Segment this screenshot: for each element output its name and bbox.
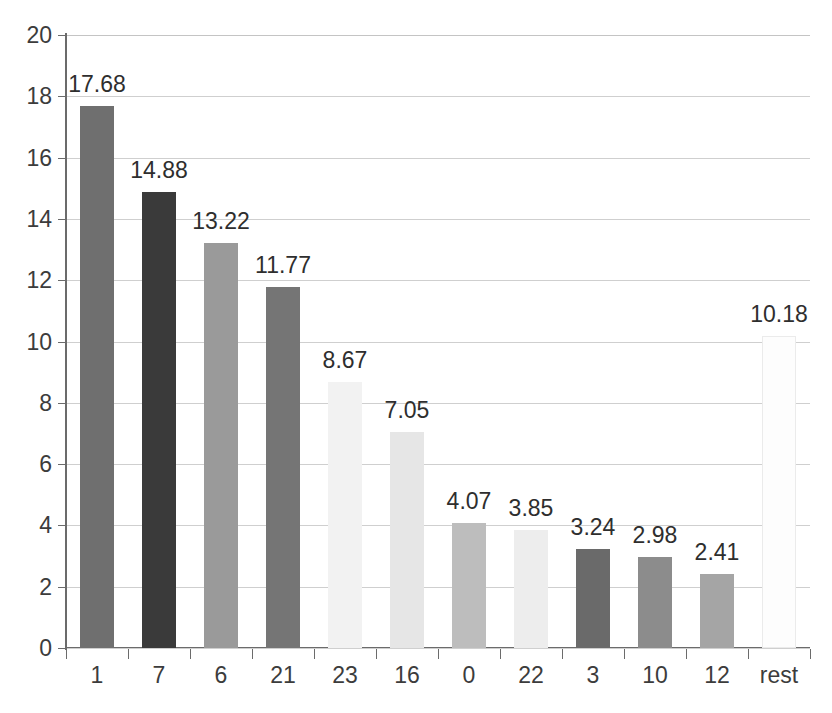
bar-fill — [638, 557, 672, 648]
x-axis-tick-label: 1 — [91, 664, 104, 687]
bar-fill — [328, 382, 362, 648]
x-axis-tick — [438, 649, 439, 659]
y-axis-tick — [58, 219, 67, 220]
bar-value-label: 3.24 — [571, 516, 616, 539]
bar[interactable] — [452, 523, 486, 648]
gridline — [66, 280, 810, 281]
x-axis-tick-label: 12 — [704, 664, 730, 687]
gridline — [66, 464, 810, 465]
x-axis-tick-label: 6 — [215, 664, 228, 687]
x-axis-tick-label: 16 — [394, 664, 420, 687]
bar[interactable] — [142, 192, 176, 648]
y-axis-tick — [58, 96, 67, 97]
x-axis-tick — [810, 649, 811, 659]
y-axis-tick-label: 4 — [6, 514, 52, 537]
x-axis-tick-label: 22 — [518, 664, 544, 687]
bar[interactable] — [762, 336, 796, 648]
bar-fill — [700, 574, 734, 648]
x-axis-tick — [190, 649, 191, 659]
bar[interactable] — [638, 557, 672, 648]
x-axis-tick-label: 3 — [587, 664, 600, 687]
y-axis-tick — [58, 403, 67, 404]
x-axis-tick-label: 0 — [463, 664, 476, 687]
bar-value-label: 4.07 — [447, 490, 492, 513]
x-axis-tick — [748, 649, 749, 659]
bar-chart: 02468101214161820 17.68114.88713.22611.7… — [0, 0, 832, 713]
gridline — [66, 403, 810, 404]
x-axis-tick-label: 10 — [642, 664, 668, 687]
x-axis-tick — [686, 649, 687, 659]
y-axis-tick — [58, 342, 67, 343]
bar-fill — [514, 530, 548, 648]
gridline — [66, 342, 810, 343]
y-axis-tick-label: 14 — [6, 208, 52, 231]
gridline — [66, 35, 810, 36]
y-axis-tick-label: 2 — [6, 576, 52, 599]
x-axis-tick — [314, 649, 315, 659]
y-axis-tick-label: 10 — [6, 331, 52, 354]
gridline — [66, 525, 810, 526]
bar[interactable] — [390, 432, 424, 648]
x-axis-tick — [562, 649, 563, 659]
y-axis-tick-label: 18 — [6, 85, 52, 108]
x-axis-tick — [128, 649, 129, 659]
bar-fill — [576, 549, 610, 648]
bar-fill — [390, 432, 424, 648]
x-axis-tick — [376, 649, 377, 659]
y-axis-tick — [58, 525, 67, 526]
bar-value-label: 7.05 — [385, 399, 430, 422]
x-axis-tick-label: rest — [760, 664, 798, 687]
bar-fill — [80, 106, 114, 648]
bar[interactable] — [328, 382, 362, 648]
y-axis-tick — [58, 464, 67, 465]
bar[interactable] — [514, 530, 548, 648]
y-axis-tick — [58, 587, 67, 588]
bar[interactable] — [700, 574, 734, 648]
y-axis-tick — [58, 280, 67, 281]
bar-fill — [266, 287, 300, 648]
x-axis-tick-label: 21 — [270, 664, 296, 687]
bar-fill — [204, 243, 238, 648]
bar-value-label: 13.22 — [192, 210, 250, 233]
x-axis-tick — [624, 649, 625, 659]
bar-value-label: 14.88 — [130, 159, 188, 182]
y-axis-tick-label: 20 — [6, 24, 52, 47]
y-axis-tick — [58, 158, 67, 159]
x-axis-tick-label: 23 — [332, 664, 358, 687]
x-axis-tick — [66, 649, 67, 659]
gridline — [66, 96, 810, 97]
bar-value-label: 11.77 — [255, 254, 311, 277]
bar-fill — [142, 192, 176, 648]
x-axis-tick-label: 7 — [153, 664, 166, 687]
bar[interactable] — [204, 243, 238, 648]
bar-value-label: 8.67 — [323, 349, 368, 372]
bar-value-label: 17.68 — [68, 73, 126, 96]
bar-value-label: 10.18 — [750, 303, 808, 326]
y-axis-tick-label: 16 — [6, 147, 52, 170]
y-axis-labels: 02468101214161820 — [0, 0, 52, 713]
bar-fill — [762, 336, 796, 648]
bar-fill — [452, 523, 486, 648]
bar[interactable] — [80, 106, 114, 648]
bar[interactable] — [266, 287, 300, 648]
y-axis-tick-label: 8 — [6, 392, 52, 415]
x-axis-tick — [500, 649, 501, 659]
bar[interactable] — [576, 549, 610, 648]
y-axis-tick-label: 0 — [6, 637, 52, 660]
gridline — [66, 219, 810, 220]
y-axis-tick-label: 12 — [6, 269, 52, 292]
x-axis-tick — [252, 649, 253, 659]
y-axis-tick — [58, 35, 67, 36]
bar-value-label: 2.98 — [633, 524, 678, 547]
bar-value-label: 2.41 — [695, 541, 740, 564]
y-axis-tick-label: 6 — [6, 453, 52, 476]
gridline — [66, 587, 810, 588]
bar-value-label: 3.85 — [509, 497, 554, 520]
